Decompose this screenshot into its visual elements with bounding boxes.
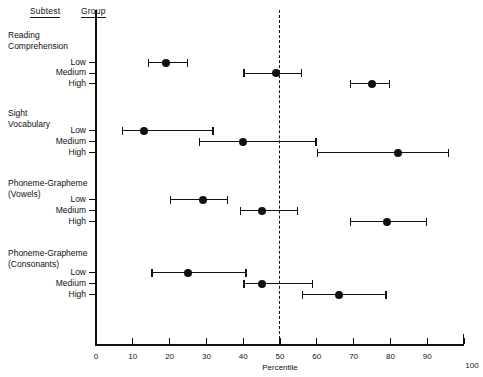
column-header-group: Group [81,6,106,16]
subtest-label: ReadingComprehension [8,30,96,51]
confidence-interval [0,68,474,79]
confidence-interval [0,267,474,278]
x-axis-tick [463,338,464,344]
interval-cap-high [227,196,228,204]
x-axis-label: Percentile [220,363,340,372]
interval-cap-high [315,138,316,146]
x-axis-tick [316,338,317,344]
subtest-label-line2: Comprehension [8,41,96,52]
confidence-interval [0,147,474,158]
interval-cap-low [350,218,351,226]
column-header-subtest: Subtest [30,6,60,16]
interval-cap-high [187,59,188,67]
confidence-interval [0,125,474,136]
x-axis-tick [243,338,244,344]
x-axis-line [95,344,464,346]
interval-bar [243,283,313,284]
x-axis-tick-label: 100 [457,361,483,370]
data-point [184,269,192,277]
data-point [335,291,343,299]
interval-cap-high [389,80,390,88]
interval-cap-low [170,196,171,204]
interval-cap-high [448,149,449,157]
interval-cap-low [350,80,351,88]
interval-cap-high [385,291,386,299]
data-point [272,69,280,77]
x-axis-tick-label: 70 [339,352,369,361]
interval-cap-low [302,291,303,299]
x-axis-tick-label: 40 [228,352,258,361]
confidence-interval [0,216,474,227]
interval-cap-low [243,280,244,288]
interval-cap-high [245,269,246,277]
x-axis-tick-label: 30 [191,352,221,361]
subtest-label-line1: Phoneme-Grapheme [8,248,96,259]
interval-bar [302,294,387,295]
data-point [258,280,266,288]
x-axis-tick [427,338,428,344]
x-axis-tick-label: 80 [375,352,405,361]
interval-cap-high [297,207,298,215]
interval-cap-low [151,269,152,277]
interval-cap-high [426,218,427,226]
confidence-interval [0,205,474,216]
interval-cap-low [199,138,200,146]
interval-cap-low [317,149,318,157]
subtest-label: Phoneme-Grapheme(Consonants) [8,248,96,269]
confidence-interval [0,289,474,300]
data-point [162,59,170,67]
x-axis-tick [169,338,170,344]
x-axis-tick-label: 10 [118,352,148,361]
x-axis-tick [390,338,391,344]
interval-cap-low [148,59,149,67]
data-point [199,196,207,204]
interval-cap-low [122,127,123,135]
x-axis-tick [95,338,96,344]
x-axis-tick [132,338,133,344]
data-point [368,80,376,88]
x-axis-tick-label: 60 [302,352,332,361]
confidence-interval [0,278,474,289]
interval-cap-low [240,207,241,215]
x-axis-tick-label: 0 [81,352,111,361]
x-axis-tick-label: 20 [155,352,185,361]
x-axis-tick [353,338,354,344]
x-axis-tick-label: 50 [265,352,295,361]
subtest-label-line1: Phoneme-Grapheme [8,178,96,189]
x-axis-tick [279,338,280,344]
interval-bar [151,272,247,273]
confidence-interval [0,136,474,147]
interval-cap-high [312,280,313,288]
x-axis-tick [206,338,207,344]
subtest-label-line1: Reading [8,30,96,41]
interval-bar [240,210,299,211]
subtest-label-line1: Sight [8,108,96,119]
confidence-interval [0,194,474,205]
data-point [394,149,402,157]
data-point [239,138,247,146]
interval-cap-high [301,69,302,77]
data-point [258,207,266,215]
interval-bar [122,130,214,131]
interval-bar [199,141,317,142]
interval-cap-high [212,127,213,135]
data-point [140,127,148,135]
confidence-interval [0,78,474,89]
interval-cap-low [243,69,244,77]
interval-bar [317,152,449,153]
data-point [383,218,391,226]
x-axis-tick-label: 90 [412,352,442,361]
